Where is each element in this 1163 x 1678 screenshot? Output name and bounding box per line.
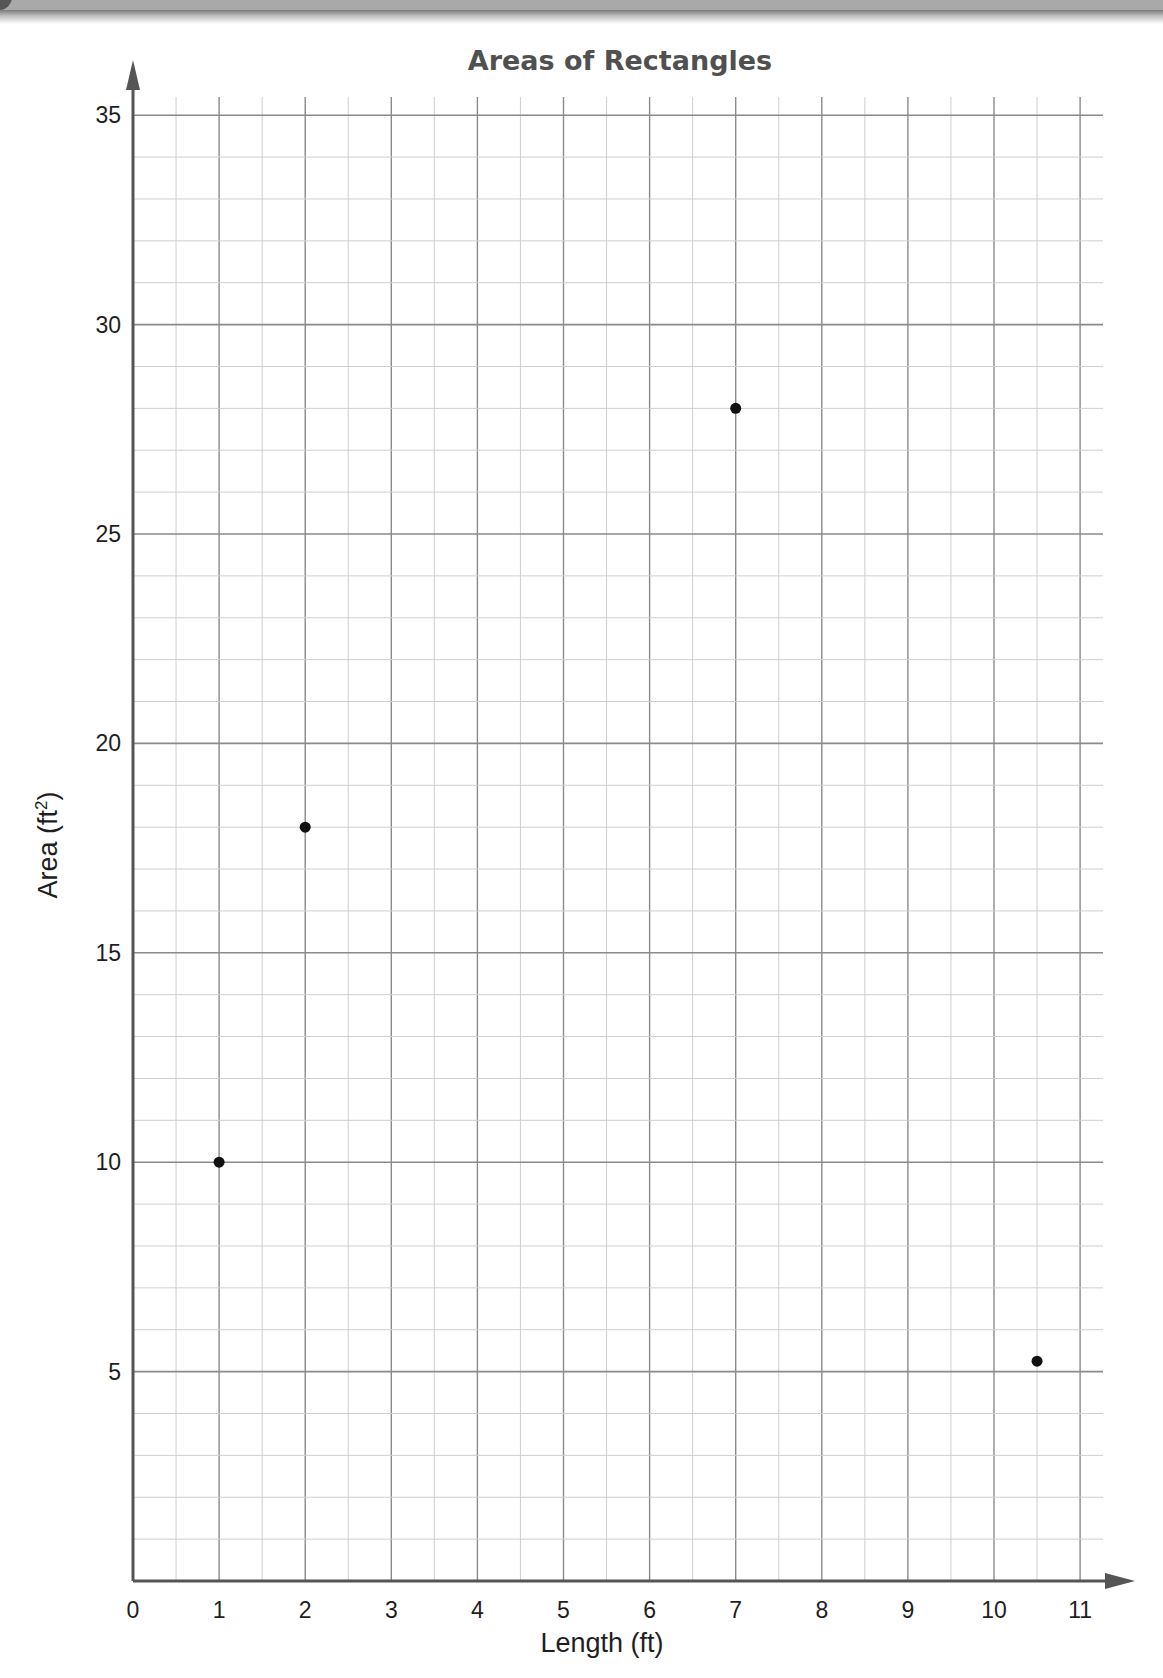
x-tick-label: 11 xyxy=(1068,1597,1092,1623)
data-point xyxy=(730,403,741,414)
x-tick-label: 0 xyxy=(127,1597,140,1623)
y-tick-label: 5 xyxy=(108,1359,121,1385)
x-tick-label: 8 xyxy=(815,1597,828,1623)
x-tick-label: 5 xyxy=(557,1597,570,1623)
x-axis-tick-labels: 01234567891011 xyxy=(127,1597,1092,1623)
chart-title: Areas of Rectangles xyxy=(468,45,772,76)
y-tick-label: 15 xyxy=(95,940,121,966)
y-axis-tick-labels: 5101520253035 xyxy=(95,102,121,1384)
x-axis-arrow-icon xyxy=(1105,1573,1135,1589)
y-tick-label: 35 xyxy=(95,102,121,128)
data-points xyxy=(214,403,1043,1367)
x-tick-label: 7 xyxy=(729,1597,742,1623)
x-axis-label: Length (ft) xyxy=(540,1628,663,1658)
scatter-chart: Areas of Rectangles 01234567891011 51015… xyxy=(0,0,1163,1678)
x-tick-label: 3 xyxy=(385,1597,398,1623)
x-tick-label: 9 xyxy=(902,1597,915,1623)
x-tick-label: 4 xyxy=(471,1597,484,1623)
x-tick-label: 6 xyxy=(643,1597,656,1623)
chart-axes xyxy=(126,60,1135,1589)
y-axis-label: Area (ft2) xyxy=(32,792,63,899)
y-tick-label: 30 xyxy=(95,312,121,338)
chart-grid xyxy=(133,97,1103,1581)
y-tick-label: 20 xyxy=(95,730,121,756)
data-point xyxy=(214,1157,225,1168)
y-tick-label: 10 xyxy=(95,1149,121,1175)
y-tick-label: 25 xyxy=(95,521,121,547)
x-tick-label: 2 xyxy=(299,1597,312,1623)
x-tick-label: 1 xyxy=(213,1597,226,1623)
y-axis-arrow-icon xyxy=(126,60,140,90)
x-tick-label: 10 xyxy=(981,1597,1007,1623)
data-point xyxy=(300,822,311,833)
data-point xyxy=(1032,1356,1043,1367)
